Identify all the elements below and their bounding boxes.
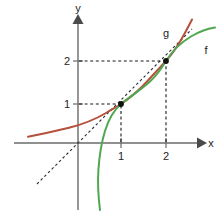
y-axis-label: y xyxy=(75,2,81,14)
y-tick-label-2: 2 xyxy=(64,55,70,67)
x-tick-label-2: 2 xyxy=(163,150,169,162)
point-2-2 xyxy=(163,58,169,64)
x-axis-label: x xyxy=(208,137,214,149)
curve-g-path xyxy=(98,28,215,210)
curve-label-g: g xyxy=(163,27,169,39)
y-axis-arrow-icon xyxy=(73,14,84,24)
x-axis-arrow-icon xyxy=(197,138,207,149)
function-graph-figure: 1 2 1 2 x y g f xyxy=(0,0,224,214)
curve-label-f: f xyxy=(204,44,208,56)
plot-canvas: 1 2 1 2 x y g f xyxy=(0,0,224,214)
x-tick-label-1: 1 xyxy=(118,150,124,162)
y-tick-label-1: 1 xyxy=(64,98,70,110)
point-1-1 xyxy=(118,101,124,107)
